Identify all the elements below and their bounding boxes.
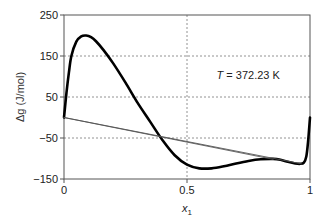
- x-tick-label: 0.5: [179, 184, 194, 196]
- y-tick-label: −150: [33, 173, 58, 185]
- y-tick-label: 150: [40, 50, 58, 62]
- x-axis-label-subscript: 1: [188, 208, 193, 217]
- axis-ticks: −150−505015025000.51: [33, 9, 313, 196]
- x-axis-label: x1: [181, 202, 193, 217]
- y-tick-label: 50: [46, 91, 58, 103]
- temperature-annotation: T = 372.23 K: [217, 69, 281, 81]
- tangent-line: [64, 118, 301, 164]
- y-axis-label: Δg (J/mol): [14, 72, 26, 122]
- y-tick-label: −50: [39, 132, 58, 144]
- y-tick-label: 250: [40, 9, 58, 21]
- x-tick-label: 1: [307, 184, 313, 196]
- x-tick-label: 0: [61, 184, 67, 196]
- annotation-value: = 372.23 K: [223, 69, 280, 81]
- grid-lines: [64, 15, 310, 179]
- chart: −150−505015025000.51 Δg (J/mol) x1 T = 3…: [0, 0, 327, 221]
